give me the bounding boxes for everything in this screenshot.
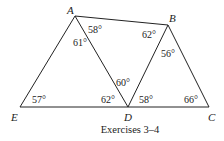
angle-label-a-58: 58° — [88, 24, 102, 35]
vertex-label-e: E — [10, 111, 18, 123]
angle-label-c-66: 66° — [184, 94, 198, 105]
figure-caption: Exercises 3–4 — [101, 124, 160, 135]
vertex-labels: A B C D E — [10, 4, 216, 123]
segment-ae — [20, 16, 75, 107]
angle-label-d-60: 60° — [116, 77, 130, 88]
vertex-label-b: B — [169, 12, 176, 24]
angle-label-d-58: 58° — [139, 94, 153, 105]
vertex-label-c: C — [208, 111, 216, 123]
angle-label-d-62: 62° — [101, 94, 115, 105]
vertex-label-d: D — [123, 111, 132, 123]
angle-label-b-62: 62° — [142, 29, 156, 40]
angle-label-b-56: 56° — [161, 48, 175, 59]
vertex-label-a: A — [66, 4, 74, 16]
angle-label-a-61: 61° — [73, 37, 87, 48]
geometry-diagram: A B C D E 61° 58° 62° 56° 60° 62° 58° 57… — [0, 0, 224, 141]
angle-label-e-57: 57° — [32, 94, 46, 105]
